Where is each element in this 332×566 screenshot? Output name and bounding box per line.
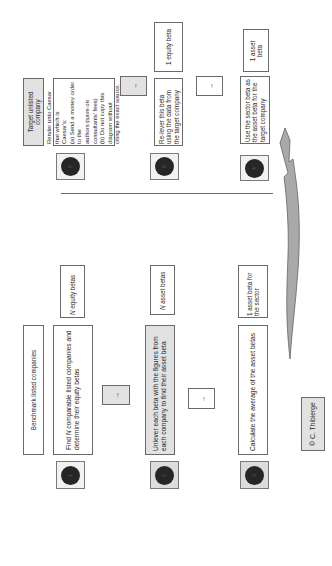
curved-flow-arrow-icon <box>0 0 332 566</box>
